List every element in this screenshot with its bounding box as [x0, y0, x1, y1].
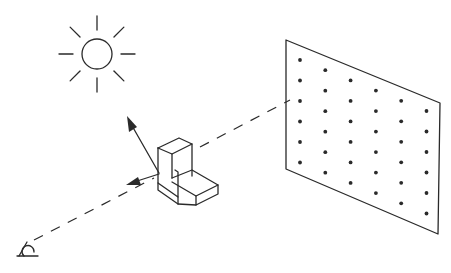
sun-ray — [114, 27, 124, 37]
sun-icon — [59, 16, 135, 92]
grid-dot — [374, 109, 378, 113]
grid-dot — [323, 109, 327, 113]
grid-dot — [425, 130, 429, 134]
sun-ray — [114, 71, 124, 81]
grid-dot — [298, 79, 302, 83]
grid-dot — [349, 161, 353, 165]
grid-dot — [399, 140, 403, 144]
grid-dot — [425, 171, 429, 175]
structured-light-diagram — [0, 0, 451, 273]
grid-dot — [374, 150, 378, 154]
grid-dot — [323, 150, 327, 154]
grid-dot — [323, 130, 327, 134]
grid-dot — [298, 120, 302, 124]
arrow-head-icon — [127, 116, 137, 132]
dot-grid — [298, 58, 428, 215]
grid-dot — [399, 160, 403, 164]
sun-ray — [70, 27, 80, 37]
grid-dot — [349, 181, 353, 185]
grid-dot — [425, 191, 429, 195]
grid-dot — [374, 191, 378, 195]
grid-dot — [298, 140, 302, 144]
grid-dot — [399, 119, 403, 123]
grid-dot — [323, 68, 327, 72]
grid-dot — [399, 201, 403, 205]
grid-dot — [349, 99, 353, 103]
grid-dot — [374, 89, 378, 93]
sun-ray — [70, 71, 80, 81]
grid-dot — [298, 99, 302, 103]
grid-dot — [425, 212, 429, 216]
screen-frame — [286, 40, 440, 234]
object-to-screen-line — [200, 100, 290, 147]
sun-rays — [59, 16, 135, 92]
eye-icon — [17, 242, 38, 256]
l-bracket-object — [158, 138, 218, 205]
grid-dot — [349, 79, 353, 83]
grid-dot — [323, 89, 327, 93]
reflection-arrow — [127, 116, 159, 173]
grid-dot — [349, 120, 353, 124]
observer-to-object-line — [34, 178, 154, 240]
grid-dot — [374, 130, 378, 134]
grid-dot — [349, 140, 353, 144]
grid-dot — [374, 171, 378, 175]
grid-dot — [323, 171, 327, 175]
grid-dot — [425, 109, 429, 113]
grid-dot — [399, 181, 403, 185]
grid-dot — [298, 58, 302, 62]
grid-dot — [298, 161, 302, 165]
arrow-head-icon — [126, 177, 141, 185]
sun-disc — [82, 39, 112, 69]
dot-grid-screen — [286, 40, 440, 234]
grid-dot — [399, 99, 403, 103]
grid-dot — [425, 150, 429, 154]
